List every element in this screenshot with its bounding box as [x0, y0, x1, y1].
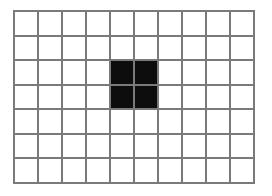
grid-cell-empty [110, 11, 134, 36]
grid-cell-empty [134, 134, 158, 159]
grid-cell-empty [38, 60, 62, 85]
grid-cell-empty [158, 36, 182, 61]
grid-cell-empty [110, 134, 134, 159]
grid-cell-empty [158, 134, 182, 159]
grid-cell-empty [206, 85, 230, 110]
grid-cell-empty [86, 134, 110, 159]
grid-cell-empty [182, 109, 206, 134]
grid-cell-empty [134, 109, 158, 134]
grid-cell-empty [182, 85, 206, 110]
grid-cell-empty [14, 36, 38, 61]
grid-cell-empty [230, 134, 254, 159]
grid-cell-empty [38, 158, 62, 183]
grid-cell-empty [62, 85, 86, 110]
grid-cell-empty [206, 134, 230, 159]
grid-cell-empty [158, 158, 182, 183]
grid-cell-empty [230, 11, 254, 36]
grid-cell-empty [230, 36, 254, 61]
grid-cell-empty [14, 11, 38, 36]
grid-cell-empty [14, 158, 38, 183]
grid-cell-empty [62, 109, 86, 134]
grid-cell-empty [14, 60, 38, 85]
grid-cell-empty [62, 11, 86, 36]
grid-cell-empty [182, 11, 206, 36]
grid-cell-filled [134, 85, 158, 110]
grid-cell-filled [110, 85, 134, 110]
grid-cell-empty [62, 36, 86, 61]
grid-cell-empty [86, 85, 110, 110]
grid-cell-empty [62, 134, 86, 159]
grid-cell-filled [134, 60, 158, 85]
grid-cell-empty [38, 11, 62, 36]
grid-figure [0, 0, 272, 196]
grid-cell-empty [182, 158, 206, 183]
grid-cell-empty [110, 109, 134, 134]
grid-cell-empty [38, 109, 62, 134]
grid-cell-empty [206, 11, 230, 36]
grid-cell-empty [230, 85, 254, 110]
grid-cell-empty [182, 60, 206, 85]
grid-cell-empty [134, 36, 158, 61]
grid-cell-empty [14, 109, 38, 134]
grid-cell-empty [182, 134, 206, 159]
grid-chart [0, 0, 272, 196]
grid-cell-empty [206, 158, 230, 183]
grid-cell-empty [110, 36, 134, 61]
grid-cell-empty [230, 158, 254, 183]
grid-cell-empty [134, 158, 158, 183]
grid-cell-empty [230, 60, 254, 85]
grid-cell-empty [110, 158, 134, 183]
grid-cell-empty [62, 60, 86, 85]
grid-cell-empty [230, 109, 254, 134]
grid-cell-empty [86, 60, 110, 85]
grid-cell-empty [182, 36, 206, 61]
grid-cell-empty [158, 11, 182, 36]
grid-cell-empty [38, 85, 62, 110]
grid-cell-empty [14, 134, 38, 159]
grid-cell-empty [14, 85, 38, 110]
grid-cell-empty [134, 11, 158, 36]
grid-cell-empty [86, 109, 110, 134]
grid-cell-empty [86, 158, 110, 183]
grid-cell-empty [38, 36, 62, 61]
grid-cell-empty [62, 158, 86, 183]
grid-cell-empty [86, 11, 110, 36]
grid-cell-empty [158, 85, 182, 110]
grid-cell-empty [158, 60, 182, 85]
grid-cell-filled [110, 60, 134, 85]
grid-cell-empty [86, 36, 110, 61]
grid-cell-empty [206, 109, 230, 134]
grid-cell-empty [38, 134, 62, 159]
grid-cell-empty [206, 60, 230, 85]
grid-cell-empty [206, 36, 230, 61]
grid-cell-empty [158, 109, 182, 134]
